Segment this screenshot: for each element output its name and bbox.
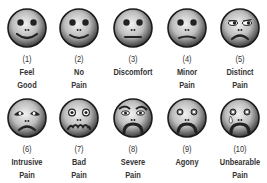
pain-level-label-line2: Pain [166,79,208,90]
pain-level-7: (7) Bad Pain [52,91,106,183]
pain-level-6: (6) Intrusive Pain [0,91,54,183]
neutral-face-icon [113,8,153,48]
grimacing-face-icon [59,98,99,138]
worried-face-icon [7,98,47,138]
pain-level-number: (5) [219,53,261,64]
pain-level-label-line2: Good [6,79,48,90]
pain-level-label-line1: Discomfort [112,66,154,77]
pain-level-label-line2: Pain [58,79,100,90]
pain-level-8: (8) Severe Pain [106,91,160,183]
angry-face-icon [113,98,153,138]
pain-level-3: (3) Discomfort [106,0,160,92]
pain-level-2: (2) No Pain [52,0,106,92]
pain-level-number: (9) [166,143,208,154]
agony-face-icon [167,98,207,138]
pain-level-label-line1: Unbearable [219,156,261,167]
pain-level-label-line1: No [58,66,100,77]
frowning-face-icon [220,8,260,48]
crying-face-icon [220,98,260,138]
slight-frown-face-icon [167,8,207,48]
pain-level-label-line2: Pain [112,169,154,180]
pain-level-number: (8) [112,143,154,154]
pain-level-4: (4) Minor Pain [160,0,214,92]
pain-level-10: (10) Unbearable Pain [213,91,267,183]
pain-level-label-line1: Distinct [219,66,261,77]
pain-level-label-line1: Intrusive [6,156,48,167]
pain-level-number: (2) [58,53,100,64]
pain-level-label-line2: Pain [219,79,261,90]
pain-level-number: (6) [6,143,48,154]
pain-level-label-line1: Bad [58,156,100,167]
pain-level-number: (4) [166,53,208,64]
pain-level-number: (3) [112,53,154,64]
pain-level-label-line1: Agony [166,156,208,167]
pain-level-number: (7) [58,143,100,154]
pain-level-label-line2: Pain [6,169,48,180]
pain-level-number: (10) [219,143,261,154]
pain-level-9: (9) Agony [160,91,214,183]
pain-level-label-line1: Minor [166,66,208,77]
pain-level-5: (5) Distinct Pain [213,0,267,92]
pain-level-number: (1) [6,53,48,64]
smiling-face-icon [59,8,99,48]
pain-level-1: (1) Feel Good [0,0,54,92]
smiling-face-icon [7,8,47,48]
pain-level-label-line2: Pain [219,169,261,180]
pain-level-label-line1: Severe [112,156,154,167]
pain-level-label-line1: Feel [6,66,48,77]
pain-level-label-line2: Pain [58,169,100,180]
